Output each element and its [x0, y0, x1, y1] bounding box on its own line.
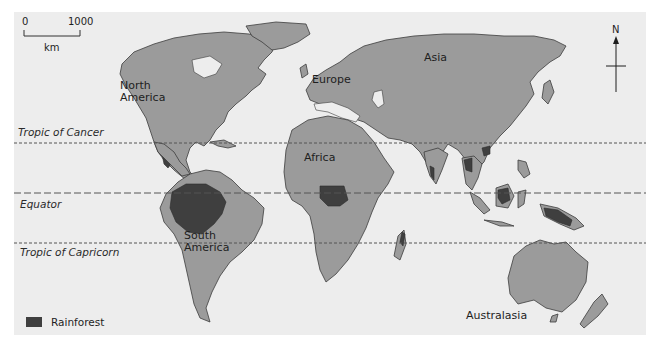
rainforest-legend-swatch — [26, 317, 42, 327]
north-arrow: N — [604, 24, 628, 84]
cuba-landmass — [210, 140, 236, 148]
africa-label: Africa — [304, 152, 335, 164]
java-landmass — [484, 220, 514, 226]
equator-label: Equator — [20, 198, 61, 210]
rainforest-legend-label: Rainforest — [51, 316, 104, 328]
europe-label: Europe — [312, 74, 351, 86]
philippines-landmass — [518, 160, 530, 178]
tropic-of-capricorn-label: Tropic of Capricorn — [20, 246, 119, 258]
world-map — [14, 12, 646, 335]
north-label: N — [612, 24, 619, 35]
australasia-label: Australasia — [466, 310, 527, 322]
new-zealand-landmass — [580, 294, 608, 328]
scale-start-label: 0 — [22, 16, 28, 27]
north-america-landmass — [120, 32, 276, 192]
asia-label: Asia — [424, 52, 447, 64]
map-legend: Rainforest — [26, 316, 104, 328]
north-arrow-icon — [604, 36, 628, 92]
scale-end-label: 1000 — [68, 16, 93, 27]
japan-landmass — [542, 80, 554, 104]
scale-unit-label: km — [44, 42, 60, 53]
south-america-label: South America — [184, 230, 229, 254]
sumatra-landmass — [470, 192, 490, 214]
uk-landmass — [300, 64, 308, 78]
tropic-of-cancer-label: Tropic of Cancer — [18, 126, 103, 138]
australia-landmass — [508, 240, 588, 312]
tasmania-landmass — [550, 314, 558, 322]
north-america-label: North America — [120, 80, 165, 104]
india-landmass — [424, 148, 448, 184]
map-panel: 0 1000 km N Tropic of Cancer Equator Tro… — [14, 12, 646, 335]
